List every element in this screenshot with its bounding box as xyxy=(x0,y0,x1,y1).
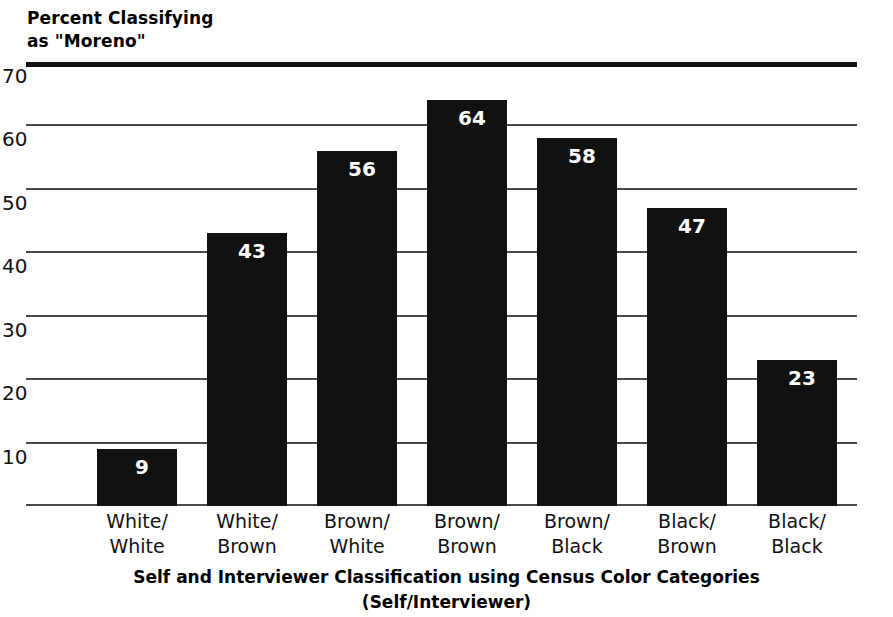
x-axis-title: Self and Interviewer Classification usin… xyxy=(0,565,893,615)
category-label-black-black: Black/Black xyxy=(743,509,851,559)
category-label-line-2: Black xyxy=(523,534,631,559)
bar-chart: Percent Classifying as "Moreno" 94356645… xyxy=(0,0,893,617)
category-label-white-white: White/White xyxy=(83,509,191,559)
x-axis-title-line-1: Self and Interviewer Classification usin… xyxy=(0,565,893,590)
bar-white-brown[interactable]: 43 xyxy=(207,233,287,506)
bar-black-black[interactable]: 23 xyxy=(757,360,837,506)
category-label-brown-black: Brown/Black xyxy=(523,509,631,559)
category-label-line-2: White xyxy=(83,534,191,559)
bar-brown-brown[interactable]: 64 xyxy=(427,100,507,506)
bar-group[interactable]: 47 xyxy=(647,208,727,506)
category-label-line-2: White xyxy=(303,534,411,559)
bar-value-label: 64 xyxy=(427,107,507,129)
category-label-brown-white: Brown/White xyxy=(303,509,411,559)
y-axis-title: Percent Classifying as "Moreno" xyxy=(27,7,327,53)
bars-layer: 9435664584723 xyxy=(26,62,857,506)
y-tick-label-30: 30 xyxy=(2,318,27,342)
y-tick-label-40: 40 xyxy=(2,254,27,278)
bar-brown-black[interactable]: 58 xyxy=(537,138,617,506)
bar-value-label: 47 xyxy=(647,215,727,237)
bar-value-label: 56 xyxy=(317,158,397,180)
category-label-line-1: Black/ xyxy=(633,509,741,534)
bar-group[interactable]: 43 xyxy=(207,233,287,506)
x-axis-category-labels: White/WhiteWhite/BrownBrown/WhiteBrown/B… xyxy=(26,509,857,565)
category-label-line-1: White/ xyxy=(193,509,301,534)
x-axis-title-line-2: (Self/Interviewer) xyxy=(0,590,893,615)
y-tick-label-70: 70 xyxy=(2,64,27,88)
bar-value-label: 58 xyxy=(537,145,617,167)
bar-group[interactable]: 56 xyxy=(317,151,397,506)
bar-value-label: 23 xyxy=(757,367,837,389)
y-tick-label-20: 20 xyxy=(2,381,27,405)
bar-white-white[interactable]: 9 xyxy=(97,449,177,506)
bar-black-brown[interactable]: 47 xyxy=(647,208,727,506)
plot-area: 9435664584723 xyxy=(26,62,857,506)
category-label-line-2: Brown xyxy=(193,534,301,559)
y-axis-title-line-2: as "Moreno" xyxy=(27,30,327,53)
category-label-line-2: Black xyxy=(743,534,851,559)
y-axis-title-line-1: Percent Classifying xyxy=(27,7,327,30)
category-label-line-1: Brown/ xyxy=(523,509,631,534)
category-label-brown-brown: Brown/Brown xyxy=(413,509,521,559)
category-label-line-2: Brown xyxy=(413,534,521,559)
y-tick-label-10: 10 xyxy=(2,445,27,469)
category-label-line-1: White/ xyxy=(83,509,191,534)
category-label-white-brown: White/Brown xyxy=(193,509,301,559)
bar-group[interactable]: 64 xyxy=(427,100,507,506)
category-label-line-1: Brown/ xyxy=(303,509,411,534)
bar-value-label: 43 xyxy=(207,240,287,262)
bar-brown-white[interactable]: 56 xyxy=(317,151,397,506)
category-label-line-1: Brown/ xyxy=(413,509,521,534)
category-label-line-2: Brown xyxy=(633,534,741,559)
bar-group[interactable]: 23 xyxy=(757,360,837,506)
bar-group[interactable]: 9 xyxy=(97,449,177,506)
category-label-black-brown: Black/Brown xyxy=(633,509,741,559)
y-tick-label-60: 60 xyxy=(2,127,27,151)
y-tick-label-50: 50 xyxy=(2,191,27,215)
bar-value-label: 9 xyxy=(97,456,177,478)
category-label-line-1: Black/ xyxy=(743,509,851,534)
bar-group[interactable]: 58 xyxy=(537,138,617,506)
